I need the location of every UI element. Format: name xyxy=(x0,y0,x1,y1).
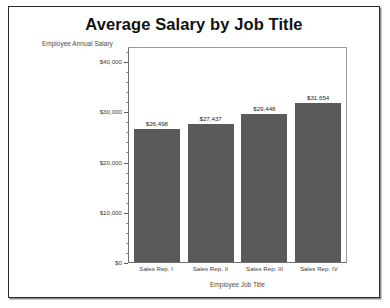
bar[interactable] xyxy=(188,124,234,262)
y-axis-tick-label: $10,000 xyxy=(100,209,122,216)
plot-area: $26,498$27,437$29,448$31,654 xyxy=(128,47,347,263)
bar[interactable] xyxy=(134,129,180,262)
x-axis-tick-label: Sales Rep. I xyxy=(129,265,183,272)
bar-group: $26,498 xyxy=(130,48,184,262)
bar-group: $27,437 xyxy=(184,48,238,262)
y-axis-tick-label: $0 xyxy=(115,259,122,266)
page-title: Average Salary by Job Title xyxy=(9,15,379,34)
y-axis: $0$10,000$20,000$30,000$40,000 xyxy=(9,47,128,263)
bar[interactable] xyxy=(295,103,341,262)
bar-group: $29,448 xyxy=(238,48,292,262)
x-axis-tick-label: Sales Rep. II xyxy=(183,265,237,272)
x-axis-tick-label: Sales Rep. IV xyxy=(292,265,346,272)
x-axis-tick-label: Sales Rep. III xyxy=(238,265,292,272)
y-axis-tick-label: $40,000 xyxy=(100,58,122,65)
x-axis-title: Employee Job Title xyxy=(128,281,347,288)
bar-series: $26,498$27,437$29,448$31,654 xyxy=(129,48,346,262)
bar-value-label: $29,448 xyxy=(238,105,292,112)
y-axis-tick-label: $20,000 xyxy=(100,159,122,166)
bar-value-label: $27,437 xyxy=(184,115,238,122)
bar-value-label: $31,654 xyxy=(291,94,345,101)
bar-value-label: $26,498 xyxy=(130,120,184,127)
y-axis-tick-label: $30,000 xyxy=(100,108,122,115)
y-axis-tick-mark xyxy=(124,263,128,264)
bar[interactable] xyxy=(241,114,287,262)
x-axis: Sales Rep. ISales Rep. IISales Rep. IIIS… xyxy=(128,265,347,272)
y-axis-title: Employee Annual Salary xyxy=(42,40,113,47)
report-frame: Average Salary by Job Title Employee Ann… xyxy=(8,6,380,298)
bar-group: $31,654 xyxy=(291,48,345,262)
